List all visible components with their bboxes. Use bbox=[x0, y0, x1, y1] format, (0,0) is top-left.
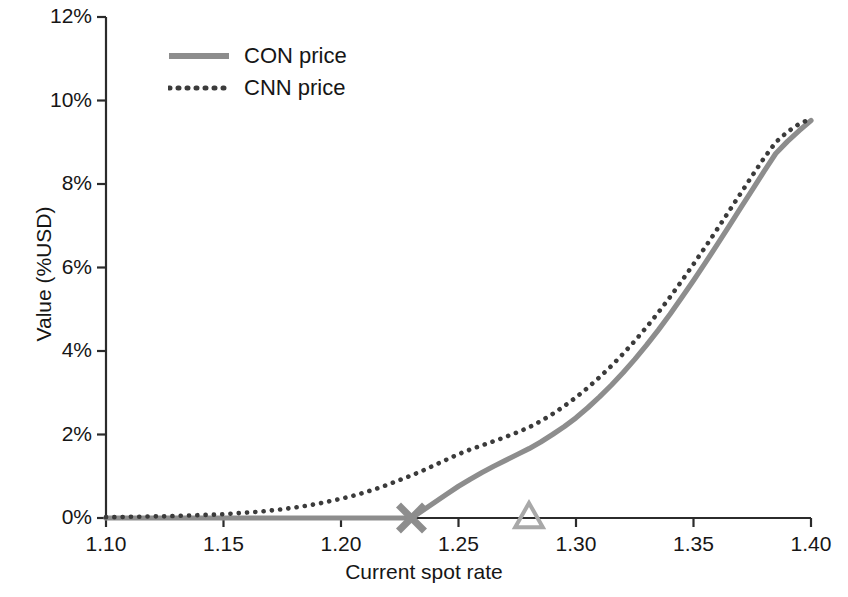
y-axis-tick-label: 10% bbox=[0, 88, 92, 112]
x-axis-title: Current spot rate bbox=[0, 560, 848, 584]
y-axis-tick-label: 2% bbox=[0, 422, 92, 446]
legend-item-cnn-price: CNN price bbox=[168, 72, 347, 104]
legend-swatch-solid-line bbox=[168, 47, 230, 65]
legend-label-cnn-price: CNN price bbox=[244, 75, 345, 101]
chart-container: 0%2%4%6%8%10%12% 1.101.151.201.251.301.3… bbox=[0, 0, 848, 597]
x-axis-tick-label: 1.20 bbox=[291, 532, 391, 556]
series-line-con-price bbox=[106, 121, 811, 518]
x-axis-tick-label: 1.25 bbox=[409, 532, 509, 556]
x-axis-tick-label: 1.40 bbox=[761, 532, 848, 556]
x-axis-tick-label: 1.35 bbox=[644, 532, 744, 556]
chart-legend: CON price CNN price bbox=[168, 40, 347, 104]
y-axis-tick-label: 0% bbox=[0, 505, 92, 529]
legend-swatch-dotted-line bbox=[168, 79, 230, 97]
x-axis-tick-label: 1.15 bbox=[174, 532, 274, 556]
data-series bbox=[106, 119, 811, 518]
y-axis-tick-label: 12% bbox=[0, 4, 92, 28]
x-axis-tick-label: 1.30 bbox=[526, 532, 626, 556]
legend-label-con-price: CON price bbox=[244, 43, 347, 69]
y-axis-title: Value (%USD) bbox=[32, 124, 56, 424]
chart-plot-area bbox=[0, 0, 848, 597]
series-line-cnn-price bbox=[106, 119, 811, 517]
cnn-barrier-marker bbox=[515, 503, 543, 527]
legend-item-con-price: CON price bbox=[168, 40, 347, 72]
x-axis-tick-label: 1.10 bbox=[56, 532, 156, 556]
